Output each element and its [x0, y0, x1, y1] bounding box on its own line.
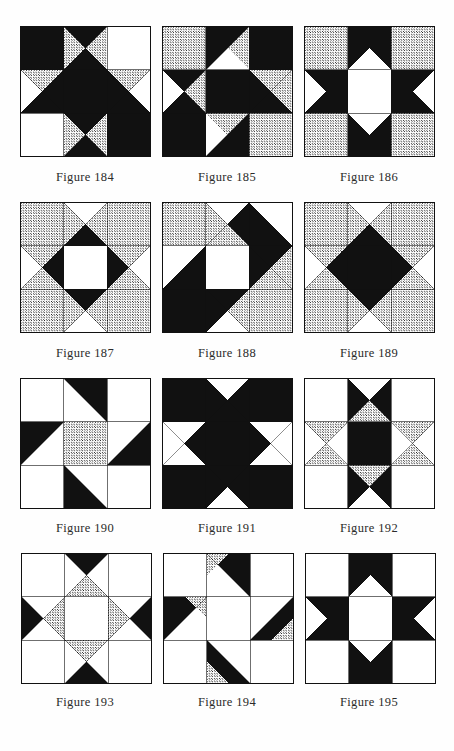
figure-item-194: Figure 194 [156, 553, 298, 729]
quilt-cell-r0-c0 [21, 378, 64, 421]
quilt-cell-r2-c2 [107, 289, 150, 332]
quilt-cell-r1-c1 [348, 421, 391, 464]
quilt-cell-r1-c0 [20, 246, 63, 289]
quilt-cell-r0-c1 [205, 203, 248, 246]
quilt-block-184 [20, 26, 150, 156]
quilt-block-194 [163, 553, 291, 681]
quilt-cell-r2-c2 [107, 113, 150, 156]
quilt-cell-r0-c1 [64, 378, 107, 421]
figure-caption-188: Figure 188 [198, 346, 256, 361]
quilt-block-195 [305, 553, 433, 681]
quilt-block-188 [162, 202, 293, 333]
quilt-cell-r0-c2 [249, 27, 292, 70]
quilt-cell-r2-c0 [164, 640, 207, 683]
quilt-cell-r1-c0 [164, 597, 207, 640]
quilt-cell-r2-c0 [305, 465, 348, 508]
quilt-cell-r2-c2 [391, 465, 434, 508]
quilt-cell-r0-c1 [64, 27, 107, 70]
quilt-cell-r2-c0 [306, 640, 349, 683]
quilt-block-185 [162, 26, 292, 156]
quilt-cell-r1-c1 [347, 246, 390, 289]
figure-item-185: Figure 185 [156, 26, 298, 202]
quilt-cell-r2-c2 [391, 113, 434, 156]
quilt-cell-r1-c1 [63, 246, 106, 289]
quilt-cell-r0-c0 [21, 27, 64, 70]
figure-caption-195: Figure 195 [340, 695, 398, 710]
quilt-cell-r1-c2 [107, 246, 150, 289]
figure-grid: Figure 184Figure 185Figure 186Figure 187… [0, 0, 454, 751]
figure-item-191: Figure 191 [156, 378, 298, 554]
figure-item-195: Figure 195 [298, 553, 440, 729]
quilt-cell-r2-c1 [206, 113, 249, 156]
figure-caption-192: Figure 192 [340, 521, 398, 536]
figure-item-184: Figure 184 [14, 26, 156, 202]
quilt-cell-r0-c1 [348, 378, 391, 421]
quilt-cell-r1-c2 [391, 70, 434, 113]
quilt-cell-r1-c0 [21, 70, 64, 113]
quilt-cell-r1-c2 [250, 597, 293, 640]
quilt-cell-r0-c2 [107, 27, 150, 70]
figure-item-186: Figure 186 [298, 26, 440, 202]
figure-caption-191: Figure 191 [198, 521, 256, 536]
quilt-cell-r0-c1 [348, 27, 391, 70]
quilt-cell-r1-c2 [107, 421, 150, 464]
quilt-cell-r2-c1 [349, 640, 392, 683]
quilt-cell-r0-c0 [22, 554, 65, 597]
figure-item-187: Figure 187 [14, 202, 156, 378]
quilt-cell-r1-c0 [163, 70, 206, 113]
quilt-cell-r0-c0 [20, 203, 63, 246]
quilt-cell-r2-c1 [207, 640, 250, 683]
quilt-cell-r0-c0 [163, 27, 206, 70]
figure-caption-184: Figure 184 [56, 170, 114, 185]
quilt-cell-r2-c1 [64, 465, 107, 508]
quilt-cell-r0-c2 [392, 554, 435, 597]
quilt-cell-r2-c0 [21, 465, 64, 508]
quilt-cell-r0-c1 [65, 554, 108, 597]
quilt-cell-r2-c0 [304, 289, 347, 332]
quilt-cell-r0-c1 [63, 203, 106, 246]
quilt-cell-r0-c2 [249, 378, 292, 421]
quilt-cell-r2-c1 [348, 113, 391, 156]
quilt-cell-r0-c2 [391, 27, 434, 70]
quilt-cell-r0-c0 [162, 203, 205, 246]
quilt-cell-r1-c2 [108, 597, 151, 640]
figure-caption-190: Figure 190 [56, 521, 114, 536]
quilt-cell-r1-c1 [349, 597, 392, 640]
quilt-cell-r0-c0 [306, 554, 349, 597]
quilt-cell-r1-c1 [206, 421, 249, 464]
quilt-block-189 [304, 202, 435, 333]
quilt-cell-r1-c0 [22, 597, 65, 640]
quilt-cell-r1-c1 [348, 70, 391, 113]
quilt-cell-r0-c2 [391, 203, 434, 246]
figure-caption-187: Figure 187 [56, 346, 114, 361]
quilt-cell-r1-c2 [392, 597, 435, 640]
figure-caption-185: Figure 185 [198, 170, 256, 185]
figure-caption-194: Figure 194 [198, 695, 256, 710]
quilt-cell-r2-c2 [249, 113, 292, 156]
quilt-cell-r2-c0 [305, 113, 348, 156]
quilt-cell-r0-c2 [250, 554, 293, 597]
quilt-block-191 [162, 378, 292, 508]
quilt-cell-r1-c0 [305, 70, 348, 113]
quilt-cell-r1-c0 [21, 421, 64, 464]
quilt-cell-r0-c1 [206, 378, 249, 421]
quilt-cell-r0-c1 [207, 554, 250, 597]
quilt-cell-r1-c2 [391, 246, 434, 289]
quilt-cell-r0-c2 [107, 378, 150, 421]
quilt-cell-r2-c0 [163, 465, 206, 508]
quilt-cell-r1-c1 [205, 246, 248, 289]
quilt-cell-r2-c2 [108, 640, 151, 683]
quilt-cell-r0-c0 [163, 378, 206, 421]
quilt-cell-r2-c1 [65, 640, 108, 683]
figure-item-188: Figure 188 [156, 202, 298, 378]
quilt-cell-r2-c0 [21, 113, 64, 156]
quilt-cell-r1-c1 [65, 597, 108, 640]
quilt-cell-r0-c0 [305, 27, 348, 70]
quilt-cell-r1-c1 [206, 70, 249, 113]
figure-caption-186: Figure 186 [340, 170, 398, 185]
quilt-cell-r2-c0 [163, 113, 206, 156]
figure-plate: Figure 184Figure 185Figure 186Figure 187… [0, 0, 454, 751]
quilt-cell-r1-c2 [391, 421, 434, 464]
quilt-cell-r0-c2 [107, 203, 150, 246]
quilt-cell-r1-c0 [306, 597, 349, 640]
